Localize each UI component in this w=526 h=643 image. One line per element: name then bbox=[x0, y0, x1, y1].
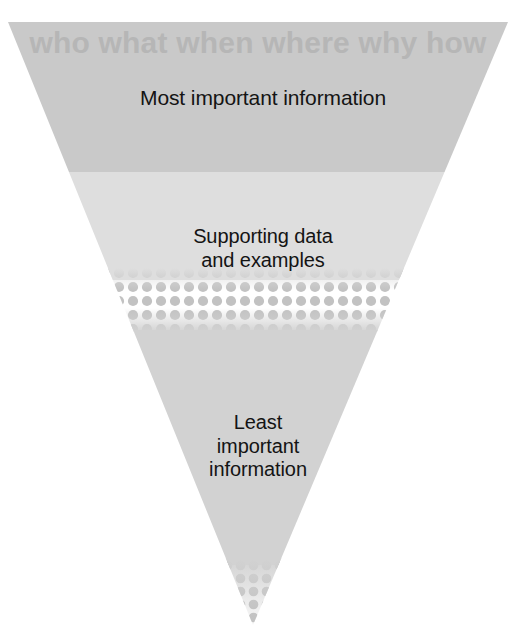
halftone-fade-top bbox=[0, 268, 526, 290]
inverted-pyramid-diagram: who what when where why how Most importa… bbox=[0, 0, 526, 643]
tier-1-band bbox=[0, 0, 526, 172]
apex-fade-overlay bbox=[0, 558, 526, 643]
pyramid-graphic bbox=[0, 0, 526, 643]
tier-3-band bbox=[0, 330, 526, 565]
halftone-fade-bottom bbox=[0, 308, 526, 332]
tier-2-band bbox=[0, 172, 526, 280]
